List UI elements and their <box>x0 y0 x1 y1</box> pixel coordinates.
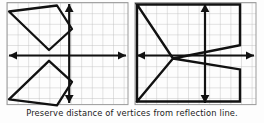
figure-root: Preserve distance of vertices from refle… <box>0 0 264 123</box>
left-coordinate-graph <box>0 0 132 108</box>
caption-text: Preserve distance of vertices from refle… <box>0 108 264 118</box>
right-graph-svg <box>132 0 264 108</box>
left-graph-svg <box>0 0 132 108</box>
right-coordinate-graph <box>132 0 264 108</box>
